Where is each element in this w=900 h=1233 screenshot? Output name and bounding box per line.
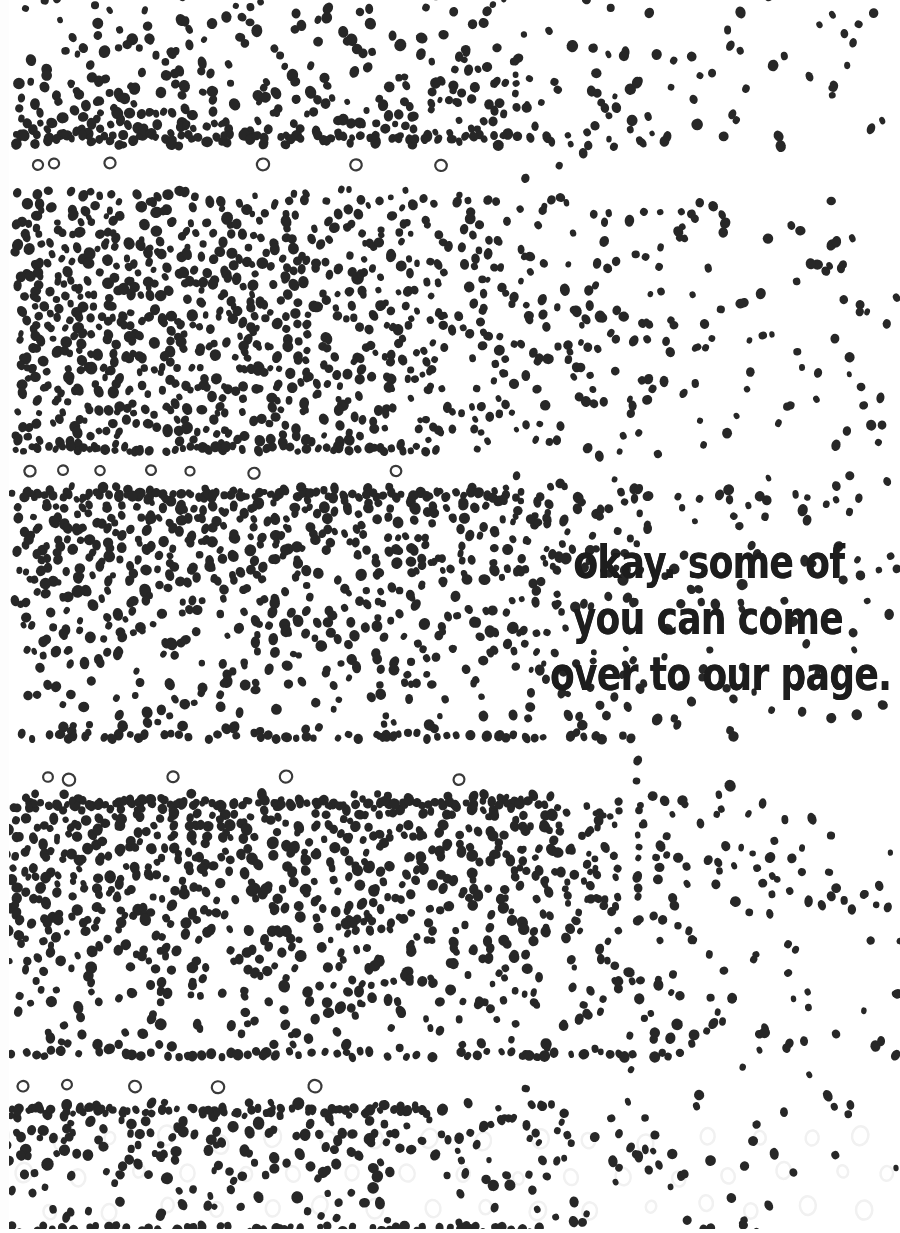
caption-line-2: you can come (550, 590, 860, 646)
caption-line-3: over to our page. (550, 646, 860, 702)
caption-line-1: okay. some of (550, 534, 860, 590)
page-left-margin (0, 0, 9, 1233)
page-bottom-margin (0, 1229, 900, 1233)
scanned-page: okay. some of you can come over to our p… (0, 0, 900, 1233)
handwritten-caption: okay. some of you can come over to our p… (550, 534, 860, 702)
